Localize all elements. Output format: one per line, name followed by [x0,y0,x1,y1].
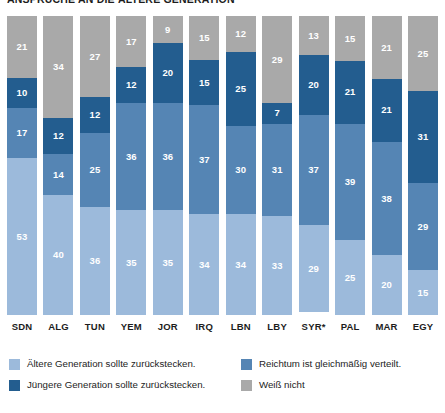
bar-segment: 40 [43,195,73,315]
bar-column: 27122536 [80,16,110,315]
bar-segment-value: 12 [235,29,246,39]
bar-segment: 39 [335,124,365,241]
bar-segment-value: 21 [381,43,392,53]
legend-item-juengere-generation: Jüngere Generation sollte zurückstecken. [9,379,241,391]
bar-column: 21101753 [7,16,37,315]
bar-segment-value: 53 [17,232,28,242]
bar-segment: 12 [116,67,146,103]
bar-segment-value: 38 [381,194,392,204]
legend-row-2: Jüngere Generation sollte zurückstecken.… [9,379,437,400]
bar-segment: 33 [262,216,292,315]
bar-segment: 30 [226,126,256,215]
bar-segment: 35 [116,210,146,315]
plot-area: 2110175334121440271225361712363592036351… [7,16,438,315]
category-label: LBN [226,321,256,332]
category-label: SYR* [299,321,329,332]
legend-item-reichtum-verteilt: Reichtum ist gleichmäßig verteilt. [241,358,437,370]
bar-segment: 31 [262,124,292,217]
bar-column: 34121440 [43,16,73,315]
bar-segment-value: 12 [53,131,64,141]
bar-segment: 35 [153,210,183,315]
bar-segment: 25 [335,240,365,315]
bar-segment: 13 [299,16,329,55]
bar-segment-value: 40 [53,250,64,260]
bar-segment: 27 [80,16,110,97]
bar-segment-value: 21 [17,42,28,52]
stacked-bar-chart: ANSPRÜCHE AN DIE ÄLTERE GENERATION 21101… [0,0,445,413]
category-label: JOR [153,321,183,332]
bar-segment: 36 [116,103,146,211]
legend-label: Weiß nicht [259,379,305,391]
bar-segment: 37 [189,105,219,215]
bar-segment-value: 34 [53,62,64,72]
bar-segment-value: 15 [345,34,356,44]
bar-segment: 29 [262,16,292,103]
category-label: SDN [7,321,37,332]
bar-segment-value: 31 [272,165,283,175]
bar-segment: 38 [372,142,402,256]
legend-item-aeltere-generation: Ältere Generation sollte zurückstecken. [9,358,241,370]
bar-column: 13203729 [299,16,329,315]
bar-column: 15213925 [335,16,365,315]
bar-segment: 20 [299,55,329,115]
bar-segment: 36 [80,207,110,315]
bar-segment: 12 [80,97,110,133]
category-label: EGY [408,321,438,332]
bar-segment: 9 [153,16,183,43]
bar-segment: 25 [408,16,438,91]
category-label: YEM [116,321,146,332]
bar-segment-value: 15 [199,78,210,88]
bar-segment-value: 15 [199,33,210,43]
bar-segment: 14 [43,154,73,196]
category-label: PAL [335,321,365,332]
bar-segment-value: 34 [235,260,246,270]
bar-segment: 53 [7,158,37,315]
bar-segment: 17 [116,16,146,67]
bar-segment: 20 [153,43,183,103]
bar-segment: 29 [299,225,329,312]
category-label: TUN [80,321,110,332]
bar-segment: 7 [262,103,292,124]
legend-item-weiss-nicht: Weiß nicht [241,379,437,391]
bar-segment-value: 20 [308,80,319,90]
bar-segment-value: 17 [126,37,137,47]
bar-segment-value: 37 [308,165,319,175]
bar-segment-value: 25 [90,165,101,175]
bar-segment: 25 [80,133,110,208]
bar-segment-value: 25 [345,273,356,283]
category-label: IRQ [189,321,219,332]
bar-segment-value: 34 [199,260,210,270]
bar-segment: 25 [226,52,256,126]
legend-label: Reichtum ist gleichmäßig verteilt. [259,358,401,370]
legend-row-1: Ältere Generation sollte zurückstecken. … [9,358,437,379]
bar-segment-value: 35 [162,258,173,268]
bar-segment: 21 [335,61,365,124]
bar-segment-value: 9 [165,25,170,35]
bar-segment-value: 36 [90,256,101,266]
legend-swatch-dark-blue [9,380,20,391]
chart-title: ANSPRÜCHE AN DIE ÄLTERE GENERATION [7,0,437,6]
bar-segment-value: 20 [381,280,392,290]
bar-segment: 34 [189,214,219,315]
bar-segment: 29 [408,183,438,270]
category-axis: SDNALGTUNYEMJORIRQLBNLBYSYR*PALMAREGY [7,318,438,334]
bar-segment-value: 15 [418,288,429,298]
bar-segment-value: 21 [345,87,356,97]
bar-segment-value: 20 [162,68,173,78]
bar-segment: 15 [335,16,365,61]
bar-segment-value: 12 [90,110,101,120]
bar-column: 25312915 [408,16,438,315]
bar-segment: 12 [43,118,73,154]
bar-segment-value: 39 [345,177,356,187]
bar-segment-value: 36 [162,152,173,162]
bar-segment: 15 [189,60,219,104]
bar-segment-value: 29 [272,55,283,65]
bar-segment-value: 37 [199,155,210,165]
bar-segment: 34 [43,16,73,118]
bar-segment: 17 [7,108,37,158]
bar-segment-value: 27 [90,52,101,62]
bar-segment-value: 29 [418,222,429,232]
bar-segment: 21 [7,16,37,78]
chart-legend: Ältere Generation sollte zurückstecken. … [9,358,437,404]
category-label: LBY [262,321,292,332]
